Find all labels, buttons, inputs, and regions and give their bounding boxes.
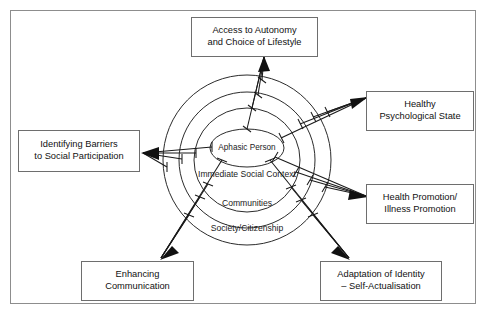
outcome-enhancing-line2: Communication	[105, 281, 170, 293]
outcome-access-autonomy-line2: and Choice of Lifestyle	[207, 37, 301, 49]
outcome-box-identifying-barriers[interactable]: Identifying Barriers to Social Participa…	[18, 130, 140, 172]
outcome-health-promotion-line1: Health Promotion/	[383, 192, 457, 204]
outcome-access-autonomy-line1: Access to Autonomy	[207, 25, 301, 37]
outcome-adaptation-line1: Adaptation of Identity	[337, 269, 424, 281]
arrowhead-enhancing-communication	[160, 246, 179, 260]
arrowhead-access-autonomy	[258, 56, 270, 72]
connector-group-enhancing-communication	[160, 158, 227, 260]
outcome-enhancing-line1: Enhancing	[105, 269, 170, 281]
ring-ellipses	[163, 75, 331, 245]
connector-group-healthy-psychological-state	[279, 97, 368, 143]
outcome-healthy-psych-line1: Healthy	[379, 99, 460, 111]
arrowhead-identifying-barriers	[141, 147, 159, 160]
connector-group-health-promotion	[272, 152, 368, 200]
ring-ellipse-communities	[179, 92, 315, 228]
arrowhead-health-promotion	[348, 190, 368, 200]
outcome-healthy-psych-line2: Psychological State	[379, 111, 460, 123]
connector-group-identifying-barriers	[141, 142, 212, 172]
outcome-box-adaptation-identity[interactable]: Adaptation of Identity – Self-Actualisat…	[320, 261, 442, 301]
outcome-identifying-line1: Identifying Barriers	[34, 139, 123, 151]
outcome-box-enhancing-communication[interactable]: Enhancing Communication	[81, 261, 194, 301]
ring-ellipse-society	[163, 75, 331, 245]
outcome-health-promotion-line2: Illness Promotion	[383, 204, 457, 216]
outcome-box-access-autonomy[interactable]: Access to Autonomy and Choice of Lifesty…	[191, 17, 318, 57]
connector-group-access-autonomy	[243, 56, 270, 132]
connector-group-adaptation-identity	[265, 158, 350, 260]
figure-container: Aphasic Person Immediate Social Context …	[0, 0, 488, 317]
ring-ellipse-immediate	[194, 108, 300, 212]
outcome-box-health-promotion[interactable]: Health Promotion/ Illness Promotion	[366, 184, 474, 224]
outcome-box-healthy-psychological-state[interactable]: Healthy Psychological State	[366, 91, 474, 131]
outcome-identifying-line2: to Social Participation	[34, 151, 123, 163]
outcome-adaptation-line2: – Self-Actualisation	[337, 281, 424, 293]
